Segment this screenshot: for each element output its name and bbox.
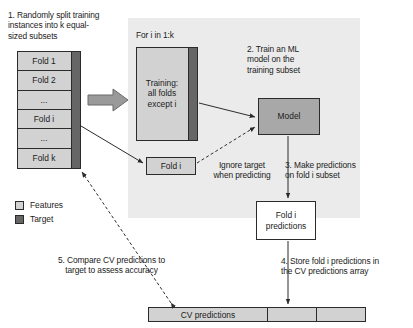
cv-predictions-array: CV predictions	[148, 307, 366, 322]
split-arrow	[88, 89, 128, 111]
legend-item-features: Features	[15, 200, 63, 210]
cv-array-cell	[268, 308, 318, 321]
fold-i-box: Fold i	[146, 157, 196, 175]
ignore-target-note: Ignore target when predicting	[204, 160, 280, 181]
fold-i-predictions-box: Fold i predictions	[256, 201, 316, 240]
fold-i-predictions-label: Fold i predictions	[266, 210, 307, 231]
fold-i-label: Fold i	[161, 161, 181, 171]
features-swatch	[15, 201, 24, 210]
step-2-caption: 2. Train an ML model on the training sub…	[247, 44, 347, 75]
step-5-caption: 5. Compare CV predictions to target to a…	[24, 255, 199, 276]
target-swatch	[15, 215, 24, 224]
legend: Features Target	[15, 200, 63, 228]
legend-label: Features	[30, 200, 63, 210]
model-box: Model	[258, 98, 320, 135]
step-4-caption: 4. Store fold i predictions in the CV pr…	[281, 256, 406, 277]
step-1-caption: 1. Randomly split training instances int…	[8, 10, 138, 41]
fold-label: Fold 2	[18, 75, 70, 85]
fold-label: Fold 1	[18, 56, 70, 66]
training-target-column	[188, 47, 198, 141]
cv-array-cell	[317, 308, 365, 321]
fold-label: Fold i	[18, 114, 70, 124]
step-3-caption: 3. Make predictions on fold i subset	[285, 160, 395, 181]
fold-label: ...	[18, 133, 70, 143]
model-label: Model	[278, 111, 301, 121]
legend-item-target: Target	[15, 214, 63, 224]
training-subset-label: Training: all folds except i	[137, 78, 187, 109]
fold-stack-target-column	[71, 51, 81, 169]
legend-label: Target	[30, 214, 53, 224]
fold-label: Fold k	[18, 153, 70, 163]
cv-array-cell: CV predictions	[149, 308, 268, 321]
loop-label: For i in 1:k	[136, 30, 256, 40]
fold-label: ...	[18, 95, 70, 105]
cross-validation-diagram: For i in 1:k 1. Randomly split training …	[0, 0, 413, 328]
